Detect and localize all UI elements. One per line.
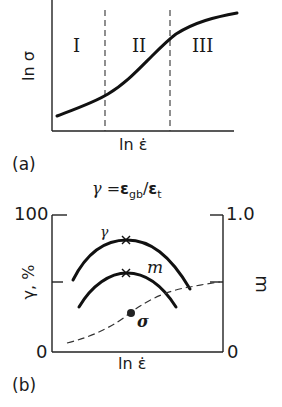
- region-label-ii: II: [132, 37, 146, 55]
- sigma-curve-label: σ: [137, 314, 149, 330]
- left-tick-0: 0: [36, 343, 47, 361]
- panel-a-label: (a): [12, 156, 36, 173]
- panel-b-axes: [52, 215, 223, 352]
- region-label-i: I: [73, 37, 80, 55]
- left-tick-100: 100: [14, 205, 48, 223]
- right-tick-1: 1.0: [226, 205, 255, 223]
- gamma-curve-label: γ: [100, 225, 108, 239]
- panel-b-right-axis-label: m: [253, 275, 271, 293]
- panel-b-title: γ =εgb/εt: [92, 181, 162, 200]
- region-label-iii: III: [192, 37, 213, 55]
- panel-a-y-axis-label: ln σ: [21, 51, 37, 81]
- m-curve: [79, 273, 176, 307]
- panel-b-left-axis-label: γ, %: [21, 265, 37, 300]
- panel-b-label: (b): [12, 377, 36, 394]
- panel-b-x-axis-label: ln ε̇: [118, 356, 146, 372]
- m-curve-label: m: [147, 259, 163, 276]
- panel-a-curve: [57, 13, 237, 116]
- gamma-curve: [73, 240, 190, 289]
- panel-a-x-axis-label: ln ε̇: [119, 137, 147, 153]
- sigma-point: [127, 309, 135, 317]
- right-tick-0: 0: [227, 343, 238, 361]
